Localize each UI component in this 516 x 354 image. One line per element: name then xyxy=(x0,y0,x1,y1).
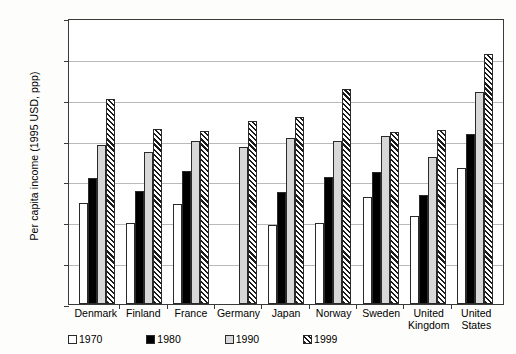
bar xyxy=(475,92,484,304)
x-axis-label: France xyxy=(167,308,215,331)
legend-label: 1970 xyxy=(79,333,102,345)
bar xyxy=(126,223,135,304)
bar xyxy=(428,157,437,304)
bar-group xyxy=(120,20,167,304)
x-axis-labels: DenmarkFinlandFranceGermanyJapanNorwaySw… xyxy=(68,308,504,331)
bar-group xyxy=(452,20,499,304)
bar-chart: Per capita income (1995 USD, ppp) 050001… xyxy=(0,0,516,354)
bar-group xyxy=(357,20,404,304)
bar xyxy=(182,171,191,304)
bar xyxy=(153,129,162,304)
x-axis-label: Denmark xyxy=(72,308,120,331)
bar xyxy=(295,117,304,304)
legend-swatch xyxy=(146,335,155,344)
bar xyxy=(200,131,209,304)
bar xyxy=(457,168,466,304)
bar xyxy=(106,99,115,304)
x-axis-label: Finland xyxy=(120,308,168,331)
bar xyxy=(390,132,399,304)
bar xyxy=(239,147,248,304)
bar-group xyxy=(168,20,215,304)
bar xyxy=(372,172,381,304)
bar xyxy=(419,195,428,304)
bar xyxy=(97,145,106,304)
bar-group xyxy=(310,20,357,304)
chart-legend: 1970198019901999 xyxy=(68,333,398,345)
bar xyxy=(410,216,419,304)
bar xyxy=(381,136,390,304)
x-axis-label: Germany xyxy=(215,308,263,331)
bar-group xyxy=(215,20,262,304)
legend-swatch xyxy=(303,335,312,344)
y-axis-title: Per capita income (1995 USD, ppp) xyxy=(28,26,40,286)
x-axis-label: Japan xyxy=(262,308,310,331)
bar xyxy=(191,141,200,304)
bar-groups xyxy=(69,20,503,304)
bar xyxy=(268,225,277,304)
bar xyxy=(466,134,475,304)
bar xyxy=(248,121,257,304)
bar xyxy=(173,204,182,305)
bar-group xyxy=(262,20,309,304)
legend-label: 1999 xyxy=(314,333,337,345)
bar xyxy=(277,192,286,304)
plot-area: 05000100001500020000250003000035000 xyxy=(68,19,504,305)
legend-swatch xyxy=(68,335,77,344)
bar xyxy=(484,54,493,304)
legend-item: 1999 xyxy=(303,333,337,345)
bar xyxy=(324,177,333,304)
bar-group xyxy=(404,20,451,304)
legend-swatch xyxy=(225,335,234,344)
bar xyxy=(135,191,144,304)
bar xyxy=(342,89,351,304)
legend-item: 1980 xyxy=(146,333,180,345)
y-tick-mark xyxy=(64,306,69,307)
bar-group xyxy=(73,20,120,304)
legend-item: 1970 xyxy=(68,333,102,345)
legend-label: 1990 xyxy=(236,333,259,345)
x-axis-label: Sweden xyxy=(357,308,405,331)
x-axis-label: United Kingdom xyxy=(405,308,453,331)
bar xyxy=(88,178,97,304)
x-axis-label: Norway xyxy=(310,308,358,331)
x-axis-label: United States xyxy=(453,308,501,331)
bar xyxy=(144,152,153,304)
bar xyxy=(315,223,324,304)
bar xyxy=(286,138,295,304)
bar xyxy=(79,203,88,304)
bar xyxy=(333,141,342,304)
legend-item: 1990 xyxy=(225,333,259,345)
bar xyxy=(437,130,446,304)
bar xyxy=(363,197,372,304)
legend-label: 1980 xyxy=(157,333,180,345)
